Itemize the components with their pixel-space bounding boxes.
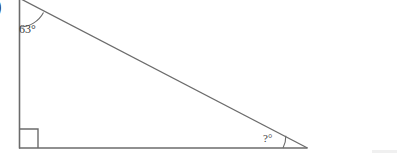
hypotenuse-line	[19, 0, 308, 148]
image-edge-artifact	[372, 150, 397, 153]
corner-text-fragment: )	[0, 0, 2, 16]
right-angle-square-marker	[20, 129, 39, 148]
unknown-angle-arc	[283, 136, 286, 148]
angle-label-unknown: ?°	[263, 133, 272, 144]
angle-label-63: 63°	[19, 23, 36, 35]
triangle-figure: ) 63° ?°	[0, 0, 397, 156]
triangle-drawing	[0, 0, 397, 156]
